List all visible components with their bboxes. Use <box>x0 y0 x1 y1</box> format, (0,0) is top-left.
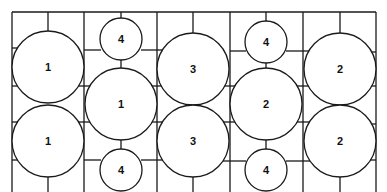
tank-label: 2 <box>337 63 343 75</box>
tank-layout-diagram: 114143342422 <box>0 0 387 192</box>
tank-circles: 114143342422 <box>12 18 376 191</box>
tank-label: 4 <box>118 33 125 45</box>
tank-label: 4 <box>263 36 270 48</box>
tank-1: 1 <box>12 31 84 103</box>
tank-4: 4 <box>100 18 142 60</box>
tank-label: 3 <box>190 63 196 75</box>
tank-4: 4 <box>245 149 287 191</box>
tank-2: 2 <box>230 68 302 140</box>
tank-label: 2 <box>337 135 343 147</box>
tank-label: 4 <box>118 164 125 176</box>
tank-label: 2 <box>263 98 269 110</box>
tank-1: 1 <box>12 105 84 177</box>
tank-label: 1 <box>118 98 124 110</box>
tank-2: 2 <box>304 105 376 177</box>
tank-label: 1 <box>45 135 51 147</box>
tank-1: 1 <box>85 68 157 140</box>
tank-2: 2 <box>304 33 376 105</box>
tank-label: 1 <box>45 61 51 73</box>
tank-label: 4 <box>263 164 270 176</box>
tank-4: 4 <box>245 21 287 63</box>
tank-label: 3 <box>190 135 196 147</box>
tank-4: 4 <box>100 149 142 191</box>
tank-3: 3 <box>157 33 229 105</box>
tank-3: 3 <box>157 105 229 177</box>
